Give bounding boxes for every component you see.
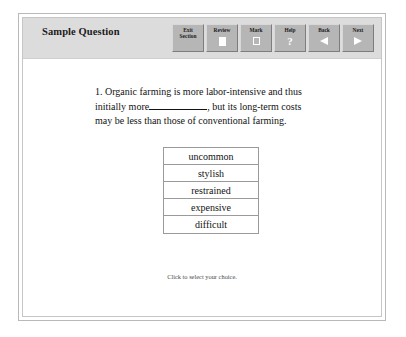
triangle-left-icon xyxy=(320,35,328,47)
next-button[interactable]: Next xyxy=(342,24,374,52)
question-number: 1. xyxy=(95,86,103,97)
application-window-inner: Sample Question Exit Section Review Mark xyxy=(22,17,382,317)
header-bar: Sample Question Exit Section Review Mark xyxy=(23,18,381,59)
triangle-right-icon xyxy=(354,35,362,47)
toolbar: Exit Section Review Mark Help xyxy=(172,24,374,52)
answer-choice-option[interactable]: restrained xyxy=(164,182,258,199)
answer-choice-label: restrained xyxy=(191,185,230,196)
exit-section-button[interactable]: Exit Section xyxy=(172,24,204,52)
help-button-label: Help xyxy=(284,27,295,33)
mark-button[interactable]: Mark xyxy=(240,24,272,52)
review-button-label: Review xyxy=(214,27,231,33)
review-button[interactable]: Review xyxy=(206,24,238,52)
question-mark-icon: ? xyxy=(287,35,293,47)
question-blank xyxy=(149,100,207,110)
question-content-area: 1. Organic farming is more labor-intensi… xyxy=(23,59,381,317)
answer-choice-option[interactable]: expensive xyxy=(164,199,258,216)
answer-choice-option[interactable]: stylish xyxy=(164,165,258,182)
help-button[interactable]: Help ? xyxy=(274,24,306,52)
next-button-label: Next xyxy=(353,27,364,33)
page-icon xyxy=(219,35,226,47)
answer-choice-list: uncommon stylish restrained expensive di… xyxy=(163,147,259,234)
exit-section-button-label-line2: Section xyxy=(180,33,197,39)
page-title: Sample Question xyxy=(42,26,120,37)
back-button[interactable]: Back xyxy=(308,24,340,52)
answer-choice-option[interactable]: uncommon xyxy=(164,148,258,165)
answer-choice-option[interactable]: difficult xyxy=(164,216,258,233)
instruction-hint: Click to select your choice. xyxy=(23,273,381,280)
question-text: 1. Organic farming is more labor-intensi… xyxy=(95,85,321,129)
answer-choice-label: uncommon xyxy=(189,151,234,162)
answer-choice-label: expensive xyxy=(191,202,231,213)
mark-button-label: Mark xyxy=(249,27,262,33)
back-button-label: Back xyxy=(318,27,330,33)
answer-choice-label: stylish xyxy=(198,168,224,179)
answer-choice-label: difficult xyxy=(195,219,227,230)
application-window: Sample Question Exit Section Review Mark xyxy=(18,13,386,321)
checkbox-icon xyxy=(253,35,260,47)
